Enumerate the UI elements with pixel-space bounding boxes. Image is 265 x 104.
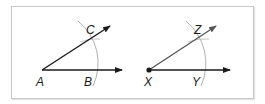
angle-yxz: X Y Z bbox=[143, 21, 230, 89]
label-b: B bbox=[84, 75, 92, 89]
label-c: C bbox=[86, 23, 95, 37]
label-z: Z bbox=[193, 23, 202, 37]
label-a: A bbox=[35, 75, 44, 89]
ray-ac bbox=[42, 26, 110, 70]
angle-copy-diagram: A B C X Y Z bbox=[0, 0, 265, 104]
vertex-dot-x bbox=[146, 67, 151, 72]
angle-bac: A B C bbox=[35, 21, 122, 89]
construction-arc-z bbox=[188, 39, 209, 42]
label-x: X bbox=[143, 75, 153, 89]
label-y: Y bbox=[192, 75, 201, 89]
